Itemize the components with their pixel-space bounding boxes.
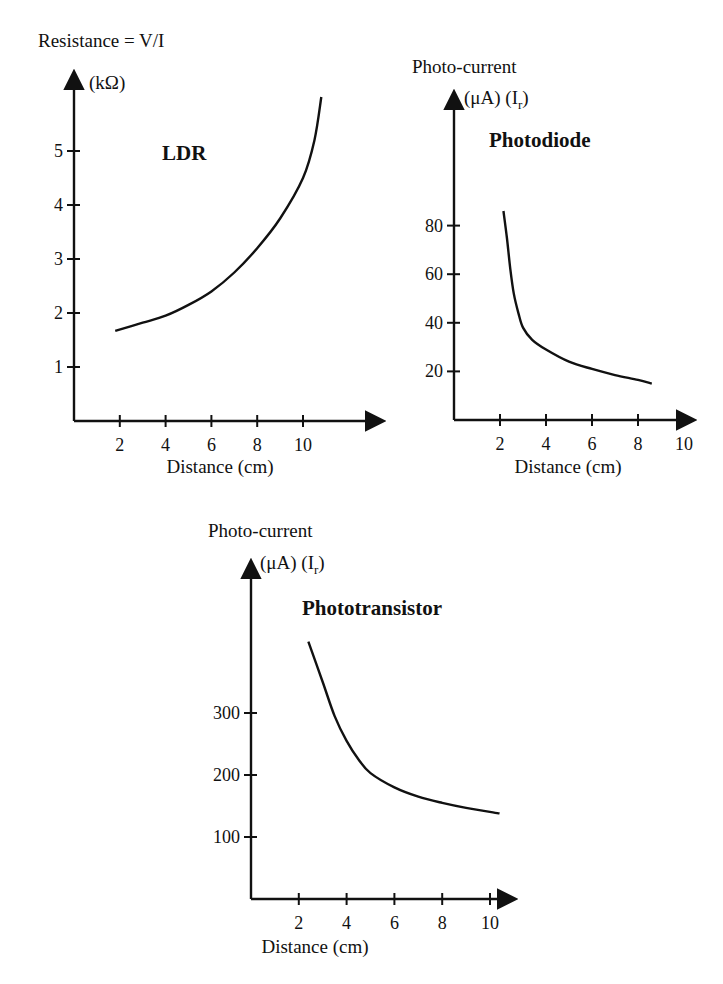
- x-tick-label: 10: [675, 434, 693, 454]
- phototransistor-chart-title: Phototransistor: [302, 596, 442, 620]
- y-tick-label: 5: [54, 141, 63, 161]
- ldr-y-axis-unit: (kΩ): [89, 72, 125, 94]
- x-tick-label: 4: [542, 434, 551, 454]
- ldr-axes: [74, 73, 382, 421]
- phototransistor-curve: [308, 642, 499, 814]
- x-tick-label: 2: [496, 434, 505, 454]
- photodiode-ticks: 24681020406080: [425, 216, 693, 454]
- x-tick-label: 4: [161, 435, 170, 455]
- figure-canvas: Resistance = V/I (kΩ) LDR Distance (cm) …: [0, 0, 723, 984]
- y-tick-label: 3: [54, 249, 63, 269]
- x-tick-label: 2: [294, 913, 303, 933]
- y-tick-label: 200: [213, 765, 240, 785]
- x-tick-label: 6: [207, 435, 216, 455]
- ldr-x-axis-label: Distance (cm): [166, 456, 273, 478]
- ldr-curve: [115, 97, 321, 331]
- phototransistor-y-axis-unit: (μA) (Ir): [260, 552, 325, 577]
- x-tick-label: 10: [481, 913, 499, 933]
- y-tick-label: 20: [425, 361, 443, 381]
- y-tick-label: 60: [425, 264, 443, 284]
- phototransistor-chart: Photo-current (μA) (Ir) Phototransistor …: [208, 520, 514, 958]
- y-tick-label: 100: [213, 827, 240, 847]
- x-tick-label: 4: [342, 913, 351, 933]
- photodiode-y-axis-label: Photo-current: [412, 56, 517, 77]
- x-tick-label: 10: [294, 435, 312, 455]
- x-tick-label: 6: [588, 434, 597, 454]
- photodiode-y-axis-unit: (μA) (Ir): [464, 87, 529, 112]
- photodiode-x-axis-label: Distance (cm): [514, 456, 621, 478]
- ldr-chart: Resistance = V/I (kΩ) LDR Distance (cm) …: [38, 30, 382, 478]
- y-tick-label: 1: [54, 357, 63, 377]
- phototransistor-y-axis-label: Photo-current: [208, 520, 313, 541]
- phototransistor-x-axis-label: Distance (cm): [261, 936, 368, 958]
- x-tick-label: 2: [115, 435, 124, 455]
- x-tick-label: 8: [634, 434, 643, 454]
- x-tick-label: 8: [438, 913, 447, 933]
- y-tick-label: 300: [213, 703, 240, 723]
- photodiode-chart: Photo-current (μA) (Ir) Photodiode Dista…: [412, 56, 693, 478]
- ldr-y-axis-label: Resistance = V/I: [38, 30, 164, 51]
- y-tick-label: 40: [425, 313, 443, 333]
- y-tick-label: 2: [54, 303, 63, 323]
- x-tick-label: 8: [253, 435, 262, 455]
- y-tick-label: 4: [54, 195, 63, 215]
- x-tick-label: 6: [390, 913, 399, 933]
- photodiode-chart-title: Photodiode: [489, 128, 591, 152]
- ldr-ticks: 24681012345: [54, 141, 312, 455]
- photodiode-curve: [503, 211, 651, 384]
- ldr-chart-title: LDR: [162, 141, 207, 165]
- y-tick-label: 80: [425, 216, 443, 236]
